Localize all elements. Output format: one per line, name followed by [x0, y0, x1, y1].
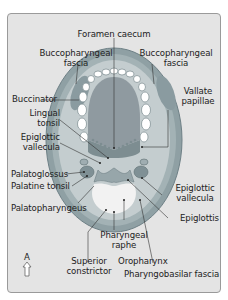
label-lingual-tonsil-1: Lingual: [10, 108, 60, 118]
label-buccopharyngeal-fascia-left-2: fascia: [36, 58, 116, 68]
label-pharyngobasilar-fascia: Pharyngobasilar fascia: [124, 269, 219, 279]
label-epiglottis: Epiglottis: [180, 213, 219, 223]
label-epiglottic-vallecula-right-1: Epiglottic: [172, 183, 218, 193]
label-palatoglossus: Palatoglossus: [11, 169, 68, 179]
label-superior-constrictor-2: constrictor: [62, 266, 116, 276]
arrow-up-icon: [23, 262, 31, 276]
label-pharyngeal-raphe-2: raphe: [94, 240, 154, 250]
label-buccopharyngeal-fascia-right-2: fascia: [136, 58, 216, 68]
label-epiglottic-vallecula-left-1: Epiglottic: [10, 132, 60, 142]
label-epiglottic-vallecula-right-2: vallecula: [172, 193, 218, 203]
label-lingual-tonsil-2: tonsil: [10, 118, 60, 128]
label-palatopharyngeus: Palatopharyngeus: [11, 203, 87, 213]
label-buccinator: Buccinator: [12, 94, 57, 104]
label-buccopharyngeal-fascia-right-1: Buccopharyngeal: [136, 48, 216, 58]
label-vallate-papillae-1: Vallate: [178, 86, 218, 96]
label-vallate-papillae-2: papillae: [178, 96, 218, 106]
label-foramen-caecum: Foramen caecum: [74, 29, 154, 39]
label-pharyngeal-raphe-1: Pharyngeal: [94, 230, 154, 240]
label-oropharynx: Oropharynx: [118, 256, 168, 266]
label-superior-constrictor-1: Superior: [62, 256, 116, 266]
orientation-letter: A: [24, 252, 30, 262]
label-buccopharyngeal-fascia-left-1: Buccopharyngeal: [36, 48, 116, 58]
label-epiglottic-vallecula-left-2: vallecula: [10, 142, 60, 152]
label-palatine-tonsil: Palatine tonsil: [11, 181, 70, 191]
